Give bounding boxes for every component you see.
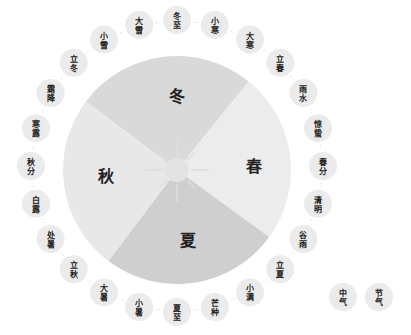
solar-term-白露: 白露 — [22, 190, 50, 218]
season-label-spring: 春 — [245, 157, 263, 176]
solar-term-char-2: 春 — [276, 63, 284, 73]
ring-connector — [310, 219, 312, 223]
legend-char-2: 气 — [374, 297, 383, 307]
solar-term-char-1: 小 — [210, 16, 219, 26]
solar-term-小满: 小满 — [236, 278, 264, 306]
solar-term-冬至: 冬至 — [163, 6, 191, 34]
solar-term-立春: 立春 — [266, 49, 294, 77]
ring-connector — [310, 109, 312, 113]
solar-term-char-1: 大 — [100, 283, 108, 293]
solar-term-char-1: 谷 — [298, 230, 308, 240]
solar-term-char-2: 明 — [314, 205, 322, 214]
solar-term-char-2: 至 — [173, 313, 181, 322]
solar-term-char-2: 露 — [32, 204, 41, 214]
solar-term-char-2: 冬 — [70, 63, 78, 73]
ring-connector — [194, 309, 198, 310]
solar-term-谷雨: 谷雨 — [289, 225, 317, 253]
solar-term-立夏: 立夏 — [266, 255, 294, 283]
legend: 中气节气 — [329, 283, 393, 311]
solar-term-char-2: 雪 — [100, 41, 108, 50]
ring-connector — [156, 309, 160, 310]
solar-term-char-1: 立 — [276, 260, 284, 270]
solar-term-char-1: 春 — [319, 157, 327, 167]
solar-term-char-2: 露 — [32, 128, 41, 138]
sun-core — [165, 158, 189, 182]
solar-term-char-1: 处 — [46, 230, 56, 240]
solar-term-小暑: 小暑 — [125, 293, 153, 321]
solar-term-春分: 春分 — [309, 152, 337, 180]
solar-term-char-2: 雨 — [299, 240, 307, 249]
ring-connector — [194, 22, 198, 23]
solar-term-芒种: 芒种 — [201, 293, 229, 321]
solar-term-小寒: 小寒 — [201, 11, 229, 39]
ring-connector — [291, 76, 294, 79]
solar-term-立冬: 立冬 — [60, 49, 88, 77]
solar-term-大暑: 大暑 — [90, 278, 118, 306]
solar-term-char-2: 蛰 — [314, 128, 322, 138]
ring-connector — [87, 50, 90, 53]
solar-term-char-1: 立 — [70, 54, 78, 64]
solar-term-char-2: 至 — [173, 21, 181, 30]
solar-term-char-2: 暑 — [99, 292, 108, 302]
season-label-winter: 冬 — [169, 87, 185, 106]
ring-connector — [320, 145, 321, 149]
legend-char-2: 气 — [338, 297, 347, 307]
ring-connector — [61, 252, 64, 255]
legend-item-节气: 节气 — [365, 283, 393, 311]
season-label-summer: 夏 — [179, 231, 197, 250]
legend-char-1: 中 — [339, 288, 347, 298]
solar-term-char-2: 种 — [210, 307, 219, 317]
solar-term-char-1: 霜 — [46, 84, 55, 94]
ring-connector — [230, 299, 234, 301]
solar-term-char-2: 满 — [246, 292, 254, 302]
solar-term-霜降: 霜降 — [37, 79, 65, 107]
solar-term-处暑: 处暑 — [37, 225, 65, 253]
solar-term-大雪: 大雪 — [125, 11, 153, 39]
ring-connector — [291, 252, 294, 255]
solar-term-char-2: 分 — [319, 166, 327, 176]
ring-connector — [320, 183, 321, 187]
solar-term-char-2: 降 — [47, 93, 56, 103]
solar-term-char-2: 雪 — [135, 26, 143, 35]
solar-term-char-1: 秋 — [26, 157, 36, 167]
solar-term-char-1: 夏 — [172, 304, 182, 313]
season-label-autumn: 秋 — [98, 167, 115, 186]
solar-term-char-1: 小 — [99, 31, 108, 41]
ring-connector — [33, 183, 34, 187]
solar-term-惊蛰: 惊蛰 — [304, 114, 332, 142]
legend-char-1: 节 — [375, 288, 383, 298]
solar-term-清明: 清明 — [304, 190, 332, 218]
ring-connector — [120, 299, 124, 301]
solar-term-char-1: 雨 — [299, 85, 307, 94]
ring-connector — [120, 31, 124, 33]
solar-terms-diagram: 冬春夏秋 冬至小寒大寒立春雨水惊蛰春分清明谷雨立夏小满芒种夏至小暑大暑立秋处暑白… — [0, 0, 411, 335]
solar-term-char-2: 寒 — [210, 25, 220, 35]
solar-term-立秋: 立秋 — [60, 255, 88, 283]
solar-term-char-1: 立 — [276, 54, 284, 64]
solar-term-char-1: 芒 — [211, 298, 219, 308]
solar-term-秋分: 秋分 — [17, 152, 45, 180]
solar-term-char-1: 寒 — [31, 119, 41, 129]
legend-item-中气: 中气 — [329, 283, 357, 311]
ring-connector — [61, 76, 64, 79]
ring-connector — [230, 31, 234, 33]
solar-term-char-1: 立 — [70, 260, 78, 270]
ring-connector — [33, 145, 34, 149]
solar-term-char-1: 小 — [134, 298, 143, 308]
solar-term-夏至: 夏至 — [163, 298, 191, 326]
ring-connector — [263, 50, 266, 53]
ring-connector — [263, 280, 266, 283]
solar-term-char-1: 白 — [32, 195, 40, 205]
solar-term-char-2: 秋 — [69, 269, 79, 279]
solar-term-char-2: 水 — [298, 93, 308, 103]
ring-connector — [156, 22, 160, 23]
solar-term-char-1: 小 — [245, 283, 254, 293]
ring-connector — [87, 280, 90, 283]
solar-term-小雪: 小雪 — [90, 26, 118, 54]
solar-term-char-2: 寒 — [245, 40, 255, 50]
solar-term-char-2: 分 — [27, 166, 35, 176]
solar-term-char-2: 夏 — [275, 270, 285, 279]
solar-term-char-1: 大 — [246, 31, 254, 41]
solar-term-char-1: 大 — [135, 16, 143, 26]
solar-term-char-2: 暑 — [46, 239, 55, 249]
